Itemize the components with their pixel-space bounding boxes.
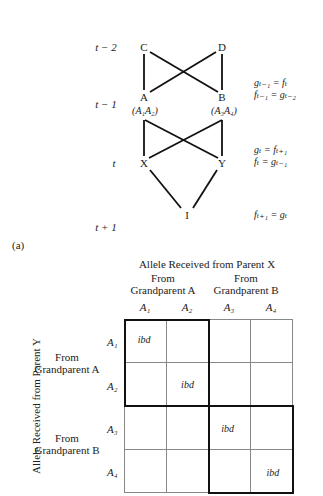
node-B-genotype: (A₃A₄) [211, 105, 237, 116]
matrix-cell [250, 319, 293, 363]
matrix-cell [250, 362, 293, 406]
generation-label-t-1: t − 1 [95, 98, 116, 110]
matrix-cell [250, 405, 293, 450]
column-title: Allele Received from Parent X [139, 258, 275, 270]
row-group-b-line1: From [34, 432, 99, 444]
node-Y: Y [218, 157, 226, 169]
node-C: C [140, 41, 147, 53]
column-group-grandparent-a: From Grandparent A [130, 272, 195, 296]
column-group-b-line1: From [213, 272, 278, 284]
column-allele-A1: A₁ [140, 301, 151, 313]
equation-t-line1: gₜ = fₜ₊₁ [254, 144, 287, 156]
column-group-a-line2: Grandparent A [130, 284, 195, 296]
cell-value: ibd [138, 334, 151, 345]
matrix-cell: ibd [250, 449, 293, 493]
row-allele-A2: A₂ [107, 380, 118, 392]
edge-B-X [149, 120, 222, 158]
generation-label-t: t [112, 157, 115, 169]
matrix-cell [166, 405, 209, 450]
matrix-cell [208, 449, 251, 493]
cell-value: ibd [181, 379, 194, 390]
cell-value: ibd [221, 422, 234, 433]
row-group-a-line1: From [34, 351, 99, 363]
column-allele-A4: A₄ [266, 301, 277, 313]
node-A-genotype: (A₁A₂) [132, 105, 158, 116]
matrix-cell: ibd [166, 362, 209, 406]
column-group-a-line1: From [130, 272, 195, 284]
matrix-cell [124, 449, 167, 493]
node-A: A [140, 91, 148, 103]
ibd-matrix: ibd ibd ibd ibd [124, 319, 293, 493]
column-allele-A2: A₂ [182, 301, 193, 313]
equation-tm1-line2: fₜ₋₁ = gₜ₋₂ [254, 89, 296, 101]
column-allele-A3: A₃ [224, 301, 235, 313]
generation-label-t-2: t − 2 [95, 41, 116, 53]
node-X: X [140, 157, 148, 169]
column-group-grandparent-b: From Grandparent B [213, 272, 278, 296]
node-I: I [185, 209, 189, 221]
matrix-cell [124, 405, 167, 450]
cell-value: ibd [266, 467, 279, 478]
node-B: B [218, 91, 225, 103]
matrix-cell [166, 319, 209, 363]
matrix-cell: ibd [208, 405, 251, 450]
column-group-b-line2: Grandparent B [213, 284, 278, 296]
edge-A-Y [145, 120, 218, 158]
panel-label: (a) [12, 239, 24, 251]
node-D: D [218, 41, 226, 53]
row-group-grandparent-a: From Grandparent A [34, 351, 99, 375]
edge-X-I [150, 170, 181, 208]
row-group-b-line2: Grandparent B [34, 444, 99, 456]
row-allele-A4: A₄ [107, 466, 118, 478]
generation-label-t+1: t + 1 [95, 221, 116, 233]
equation-tp1-line1: fₜ₊₁ = gₜ [254, 209, 287, 221]
edge-Y-I [193, 170, 217, 208]
matrix-cell [124, 362, 167, 406]
matrix-cell: ibd [124, 319, 167, 363]
row-allele-A3: A₃ [107, 423, 118, 435]
equation-tm1-line1: gₜ₋₁ = fₜ [254, 77, 287, 89]
matrix-cell [166, 449, 209, 493]
row-group-grandparent-b: From Grandparent B [34, 432, 99, 456]
row-group-a-line2: Grandparent A [34, 363, 99, 375]
matrix-cell [208, 319, 251, 363]
row-allele-A1: A₁ [107, 336, 118, 348]
equation-t-line2: fₜ = gₜ₋₁ [254, 156, 287, 168]
matrix-cell [208, 362, 251, 406]
